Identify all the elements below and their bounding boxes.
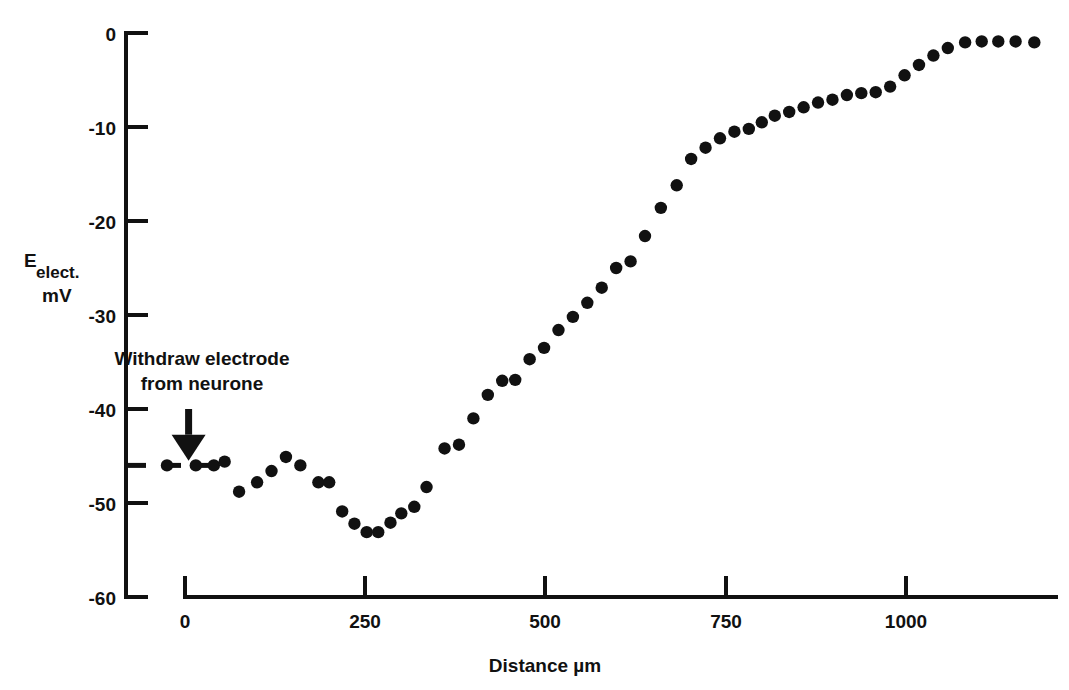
data-point (581, 297, 593, 309)
y-axis-title: E elect. mV (24, 250, 79, 306)
data-point (596, 282, 608, 294)
data-point (372, 526, 384, 538)
data-point (942, 42, 954, 54)
data-point (624, 255, 636, 267)
y-tick-label-minus50: -50 (89, 494, 116, 515)
data-point (714, 132, 726, 144)
y-tick-label-minus10: -10 (89, 118, 116, 139)
data-point-series (161, 35, 1041, 538)
data-point (496, 375, 508, 387)
data-point (552, 324, 564, 336)
x-tick-label-250: 250 (349, 611, 381, 632)
data-point (756, 116, 768, 128)
data-point (743, 123, 755, 135)
data-point (769, 110, 781, 122)
annotation-line-1: Withdraw electrode (114, 348, 289, 369)
chart-plot: 0 -10 -20 -30 -40 -50 -60 E elect. mV 0 … (0, 0, 1069, 690)
data-point (671, 179, 683, 191)
data-point (567, 311, 579, 323)
data-point (1009, 35, 1021, 47)
y-axis-title-units: mV (42, 285, 72, 306)
data-point (826, 94, 838, 106)
data-point (685, 153, 697, 165)
data-point (265, 465, 277, 477)
data-point (976, 35, 988, 47)
data-point (898, 69, 910, 81)
data-point (639, 230, 651, 242)
data-point (523, 353, 535, 365)
data-point (208, 459, 220, 471)
data-point (797, 101, 809, 113)
data-point (408, 501, 420, 513)
y-axis-title-subscript: elect. (36, 263, 79, 282)
y-tick-label-minus40: -40 (89, 400, 116, 421)
data-point (812, 96, 824, 108)
y-tick-label-0: 0 (105, 24, 116, 45)
y-tick-label-minus30: -30 (89, 306, 116, 327)
data-point (783, 106, 795, 118)
data-point (336, 505, 348, 517)
data-point (959, 36, 971, 48)
data-point (728, 126, 740, 138)
data-point (161, 459, 173, 471)
data-point (190, 459, 202, 471)
x-tick-label-750: 750 (710, 611, 742, 632)
down-arrow-icon (172, 409, 206, 461)
x-axis-title: Distance µm (489, 655, 601, 676)
x-tick-label-500: 500 (529, 611, 561, 632)
data-point (870, 86, 882, 98)
data-point (538, 342, 550, 354)
y-tick-label-minus20: -20 (89, 212, 116, 233)
data-point (280, 451, 292, 463)
data-point (218, 455, 230, 467)
y-axis-title-symbol: E (24, 250, 37, 271)
data-point (841, 89, 853, 101)
data-point (251, 476, 263, 488)
data-point (655, 202, 667, 214)
x-tick-label-0: 0 (180, 611, 191, 632)
figure-container: 0 -10 -20 -30 -40 -50 -60 E elect. mV 0 … (0, 0, 1069, 690)
data-point (467, 412, 479, 424)
x-tick-label-1000: 1000 (885, 611, 927, 632)
data-point (360, 526, 372, 538)
y-axis-tick-labels: 0 -10 -20 -30 -40 -50 -60 (89, 24, 116, 609)
data-point (992, 35, 1004, 47)
data-point (1028, 36, 1040, 48)
data-point (294, 459, 306, 471)
data-point (323, 476, 335, 488)
data-point (453, 439, 465, 451)
data-point (395, 507, 407, 519)
arrow-shaft (185, 409, 192, 435)
x-axis-tick-labels: 0 250 500 750 1000 (180, 611, 927, 632)
data-point (884, 80, 896, 92)
data-point (438, 442, 450, 454)
data-point (233, 486, 245, 498)
data-point (482, 389, 494, 401)
annotation-line-2: from neurone (141, 373, 263, 394)
y-axis-ticks (126, 33, 148, 597)
data-point (348, 517, 360, 529)
y-tick-label-minus60: -60 (89, 588, 116, 609)
data-point (420, 481, 432, 493)
data-point (610, 262, 622, 274)
withdraw-electrode-annotation: Withdraw electrode from neurone (114, 348, 289, 461)
x-axis-ticks (185, 576, 906, 597)
data-point (699, 141, 711, 153)
data-point (312, 476, 324, 488)
data-point (855, 87, 867, 99)
data-point (384, 517, 396, 529)
data-point (927, 49, 939, 61)
data-point (509, 374, 521, 386)
data-point (913, 59, 925, 71)
arrow-head (172, 435, 206, 461)
